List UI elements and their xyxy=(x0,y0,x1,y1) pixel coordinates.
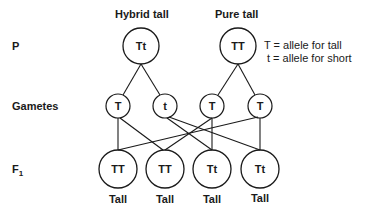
fertilization-line xyxy=(169,117,260,150)
gamete-allele: T xyxy=(209,100,216,112)
legend: T = allele for tall t = allele for short xyxy=(264,39,352,65)
meiosis-line xyxy=(238,64,255,95)
row-label-f1: F1 xyxy=(12,163,23,178)
offspring-phenotype: Tall xyxy=(251,192,269,204)
parent-genotype-hybrid: Tt xyxy=(136,40,146,52)
f1-subscript: 1 xyxy=(19,169,23,178)
offspring-genotype: TT xyxy=(111,163,124,175)
offspring-genotype: Tt xyxy=(255,163,265,175)
offspring-phenotype: Tall xyxy=(109,193,127,205)
offspring-genotype: Tt xyxy=(207,163,217,175)
legend-item-short: t = allele for short xyxy=(264,52,352,65)
offspring-phenotype: Tall xyxy=(156,193,174,205)
row-label-parent: P xyxy=(12,40,19,52)
fertilization-line xyxy=(118,117,258,150)
gamete-allele: T xyxy=(257,100,264,112)
fertilization-line xyxy=(120,118,163,150)
legend-item-tall: T = allele for tall xyxy=(264,39,352,52)
parent-title-pure: Pure tall xyxy=(215,8,258,20)
f1-letter: F xyxy=(12,163,19,175)
meiosis-line xyxy=(218,64,238,95)
parent-title-hybrid: Hybrid tall xyxy=(115,8,169,20)
parent-genotype-pure: TT xyxy=(231,40,244,52)
gamete-allele: t xyxy=(163,100,167,112)
offspring-phenotype: Tall xyxy=(203,193,221,205)
offspring-genotype: TT xyxy=(158,163,171,175)
meiosis-line xyxy=(141,64,160,95)
meiosis-line xyxy=(123,64,141,95)
row-label-gametes: Gametes xyxy=(12,100,58,112)
gamete-allele: T xyxy=(115,100,122,112)
